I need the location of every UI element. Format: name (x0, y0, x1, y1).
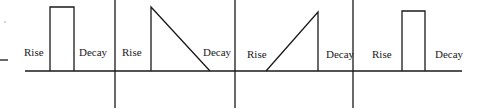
panel-3: Rise Decay (247, 12, 355, 71)
decay-label: Decay (79, 46, 108, 58)
rise-label: Rise (372, 48, 392, 60)
envelope-diagram: Rise Decay Rise Decay Rise Decay Rise De… (0, 0, 482, 112)
rise-label: Rise (122, 46, 142, 58)
sawtooth-up-envelope-shape (266, 12, 318, 71)
panel-2: Rise Decay (122, 7, 232, 71)
panel-4: Rise Decay (372, 11, 464, 71)
left-edge-dot (4, 21, 5, 22)
decay-label: Decay (435, 48, 464, 60)
decay-label: Decay (326, 48, 355, 60)
rectangle-envelope-shape (402, 11, 425, 71)
sawtooth-down-envelope-shape (151, 7, 210, 71)
rectangle-envelope-shape (50, 7, 74, 71)
rise-label: Rise (24, 46, 44, 58)
decay-label: Decay (203, 46, 232, 58)
rise-label: Rise (247, 48, 267, 60)
panel-1: Rise Decay (24, 7, 108, 71)
